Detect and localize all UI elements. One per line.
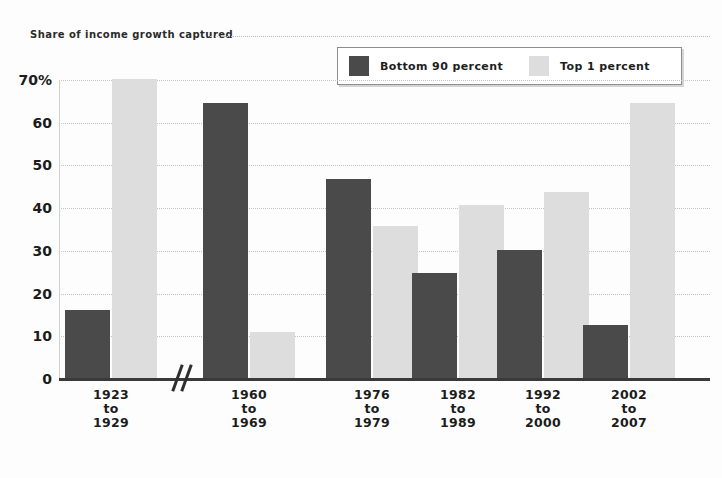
x-axis-label-line: to [584,402,674,416]
x-axis-label-line: to [413,402,503,416]
x-axis-group-label: 1923to1929 [66,388,156,430]
x-axis-label-line: 1960 [204,388,294,402]
bar-bottom90 [412,273,457,378]
axis-break-icon [172,364,198,392]
x-axis-label-line: 1979 [327,416,417,430]
x-axis-group-label: 1982to1989 [413,388,503,430]
x-axis-group-label: 1992to2000 [498,388,588,430]
bars-layer [0,58,722,378]
x-axis-label-line: to [66,402,156,416]
title-divider [210,36,710,38]
x-axis-label-line: 1969 [204,416,294,430]
x-axis-label-line: 1929 [66,416,156,430]
x-axis-label-line: 1976 [327,388,417,402]
x-axis-label-line: to [327,402,417,416]
chart-title: Share of income growth captured [30,29,233,40]
bar-top1 [112,79,157,378]
bar-bottom90 [583,325,628,378]
x-axis-label-line: to [498,402,588,416]
x-axis-label-line: 2007 [584,416,674,430]
x-axis-line [59,378,710,381]
bar-top1 [250,332,295,378]
bar-top1 [630,103,675,379]
x-axis-label-line: to [204,402,294,416]
x-axis-group-label: 1976to1979 [327,388,417,430]
x-axis-label-line: 1989 [413,416,503,430]
x-axis-label-line: 1992 [498,388,588,402]
bar-bottom90 [203,103,248,379]
x-axis-group-label: 2002to2007 [584,388,674,430]
x-axis-label-line: 1923 [66,388,156,402]
bar-bottom90 [65,310,110,378]
x-axis-group-label: 1960to1969 [204,388,294,430]
chart-container: Share of income growth captured Bottom 9… [0,0,722,478]
bar-bottom90 [497,250,542,378]
x-axis-label-line: 2000 [498,416,588,430]
x-axis-label-line: 1982 [413,388,503,402]
x-axis-label-line: 2002 [584,388,674,402]
bar-bottom90 [326,179,371,378]
